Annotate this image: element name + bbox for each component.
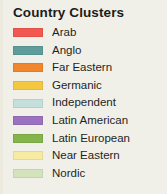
legend-color-swatch-icon [13,151,43,160]
legend-color-swatch-icon [13,169,43,178]
legend-color-swatch-icon [13,28,43,37]
legend-item-label: Latin European [52,133,130,145]
legend-item[interactable]: Nordic [0,165,167,183]
legend-item[interactable]: Germanic [0,77,167,95]
legend-color-swatch-icon [13,116,43,125]
legend-item[interactable]: Near Eastern [0,147,167,165]
legend-item[interactable]: Anglo [0,42,167,60]
legend-item-label: Nordic [52,168,85,180]
legend-item[interactable]: Arab [0,24,167,42]
legend-color-swatch-icon [13,81,43,90]
legend-item-label: Independent [52,97,116,109]
legend-color-swatch-icon [13,134,43,143]
country-clusters-legend: Country Clusters ArabAngloFar EasternGer… [0,0,167,194]
legend-color-swatch-icon [13,99,43,108]
legend-item[interactable]: Latin American [0,112,167,130]
legend-color-swatch-icon [13,46,43,55]
legend-color-swatch-icon [13,63,43,72]
legend-item-label: Far Eastern [52,62,112,74]
legend-item-label: Arab [52,27,76,39]
legend-item-label: Germanic [52,80,102,92]
legend-item-label: Near Eastern [52,150,120,162]
legend-item[interactable]: Latin European [0,130,167,148]
legend-item-label: Anglo [52,45,81,57]
legend-item-list: ArabAngloFar EasternGermanicIndependentL… [0,24,167,182]
legend-item[interactable]: Independent [0,94,167,112]
legend-title: Country Clusters [13,5,124,20]
legend-item-label: Latin American [52,115,128,127]
legend-item[interactable]: Far Eastern [0,59,167,77]
